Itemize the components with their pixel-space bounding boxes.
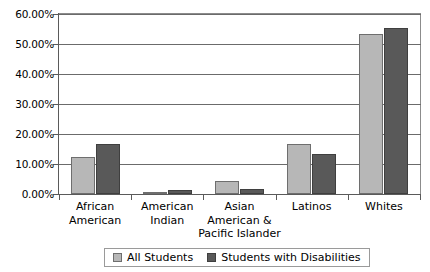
bar — [143, 192, 167, 194]
bar-chart: 0.00%10.00%20.00%30.00%40.00%50.00%60.00… — [0, 0, 430, 272]
y-axis-tick-label: 40.00% — [0, 69, 54, 80]
bar-group — [59, 14, 131, 194]
bar — [240, 189, 264, 194]
y-axis-tick-label: 10.00% — [0, 159, 54, 170]
legend-swatch-icon — [207, 253, 216, 262]
bar-group — [276, 14, 348, 194]
bar — [287, 144, 311, 194]
legend-entry: Students with Disabilities — [207, 252, 360, 263]
bar — [71, 157, 95, 194]
chart-legend: All StudentsStudents with Disabilities — [104, 248, 370, 267]
bar-series-layer — [59, 14, 420, 194]
bar — [359, 34, 383, 194]
y-axis-tick-label: 0.00% — [0, 189, 54, 200]
y-axis-tick-label: 30.00% — [0, 99, 54, 110]
y-axis-tick-label: 20.00% — [0, 129, 54, 140]
y-axis-tick-label: 50.00% — [0, 39, 54, 50]
legend-label: All Students — [127, 252, 193, 263]
bar-group — [348, 14, 420, 194]
bar — [312, 154, 336, 195]
bar — [168, 190, 192, 194]
legend-entry: All Students — [113, 252, 193, 263]
y-axis-tick-label: 60.00% — [0, 9, 54, 20]
bar — [384, 28, 408, 195]
legend-swatch-icon — [113, 253, 122, 262]
legend-label: Students with Disabilities — [221, 252, 360, 263]
bar — [96, 144, 120, 194]
bar-group — [131, 14, 203, 194]
bar — [215, 181, 239, 194]
bar-group — [203, 14, 275, 194]
x-axis-line — [58, 194, 421, 195]
x-axis-category-label: Whites — [338, 200, 430, 214]
